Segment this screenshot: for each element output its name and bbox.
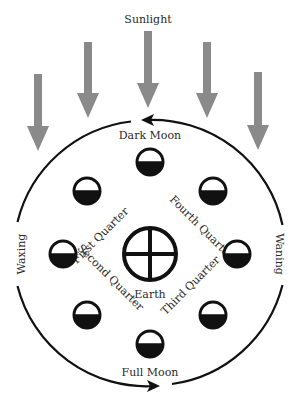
sun-arrow-icon (27, 74, 49, 151)
full-moon-label: Full Moon (122, 366, 179, 379)
sunlight-label: Sunlight (124, 13, 172, 26)
moon-phase-diagram: Sunlight (0, 0, 300, 411)
moon-first-quarter-icon (74, 178, 100, 204)
earth-symbol-icon (124, 228, 176, 280)
sun-arrow-icon (196, 42, 218, 118)
moon-dark-moon-icon (137, 149, 163, 175)
moon-third-quarter-icon (200, 302, 226, 328)
dark-moon-label: Dark Moon (119, 129, 181, 142)
moon-full-moon-icon (137, 331, 163, 357)
moon-waxing-middle-icon (50, 241, 76, 267)
moon-fourth-quarter-icon (200, 178, 226, 204)
sun-arrow-icon (77, 42, 99, 118)
sun-arrow-icon (137, 31, 159, 108)
waning-label: Waning (273, 233, 286, 275)
sun-arrow-icon (247, 72, 269, 150)
earth-label: Earth (134, 288, 165, 301)
moon-second-quarter-icon (74, 302, 100, 328)
waxing-label: Waxing (15, 234, 28, 275)
moon-waning-middle-icon (224, 241, 250, 267)
